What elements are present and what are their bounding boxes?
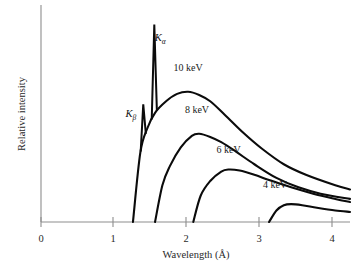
y-axis-title: Relative intensity bbox=[16, 76, 27, 151]
x-axis-title: Wavelength (Å) bbox=[162, 249, 230, 261]
k-beta-peak bbox=[141, 104, 146, 151]
k-alpha-subscript: α bbox=[162, 37, 167, 46]
series-label-4kev: 4 keV bbox=[263, 179, 288, 190]
series-label-6kev: 6 keV bbox=[217, 144, 242, 155]
x-tick-label-3: 3 bbox=[256, 233, 261, 244]
series-label-8kev: 8 keV bbox=[185, 104, 210, 115]
spectrum-plot: 0 1 2 3 4 Wavelength (Å) Relative intens… bbox=[0, 0, 357, 263]
curve-10kev bbox=[133, 92, 350, 222]
curve-4kev bbox=[269, 204, 350, 222]
k-beta-annotation: Kβ bbox=[124, 108, 136, 122]
xray-spectrum-figure: 0 1 2 3 4 Wavelength (Å) Relative intens… bbox=[0, 0, 357, 263]
k-beta-subscript: β bbox=[131, 113, 136, 122]
series-label-10kev: 10 keV bbox=[174, 62, 204, 73]
x-tick-label-0: 0 bbox=[38, 233, 43, 244]
x-tick-label-4: 4 bbox=[329, 233, 335, 244]
x-tick-label-1: 1 bbox=[110, 233, 115, 244]
x-tick-label-2: 2 bbox=[183, 233, 188, 244]
